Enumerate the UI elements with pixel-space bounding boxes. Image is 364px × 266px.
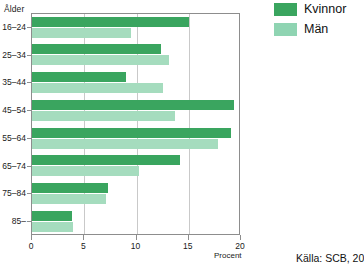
y-axis-tick-label: 25–34 bbox=[2, 50, 26, 60]
bar-group bbox=[32, 97, 239, 125]
x-axis-tick-label: 15 bbox=[183, 241, 192, 251]
y-axis-tick bbox=[27, 138, 31, 139]
bar-man bbox=[32, 222, 73, 232]
bar-group bbox=[32, 153, 239, 181]
legend-item-kvinnor: Kvinnor bbox=[274, 3, 356, 16]
plot-area bbox=[31, 13, 240, 235]
x-axis-tick bbox=[188, 235, 189, 240]
bar-kvinnor bbox=[32, 128, 231, 138]
bar-man bbox=[32, 28, 131, 38]
legend-item-man: Män bbox=[274, 23, 356, 36]
y-axis-tick-label: 75–84 bbox=[2, 188, 26, 198]
chart-legend: Kvinnor Män bbox=[274, 3, 356, 43]
bar-man bbox=[32, 111, 175, 121]
y-axis-tick-label: 45–54 bbox=[2, 105, 26, 115]
y-axis-labels: 16–2425–3435–4445–5455–6465–7475–8485– bbox=[0, 13, 29, 235]
bar-man bbox=[32, 194, 106, 204]
y-axis-tick-label: 35–44 bbox=[2, 77, 26, 87]
legend-swatch-icon-man bbox=[274, 23, 297, 36]
bar-man bbox=[32, 139, 218, 149]
y-axis-tick bbox=[27, 55, 31, 56]
bar-man bbox=[32, 83, 163, 93]
y-axis-tick-label: 16–24 bbox=[2, 22, 26, 32]
bar-kvinnor bbox=[32, 44, 161, 54]
x-axis-tick-label: 10 bbox=[131, 241, 140, 251]
bar-kvinnor bbox=[32, 72, 126, 82]
y-axis-tick bbox=[27, 221, 31, 222]
x-axis-tick bbox=[136, 235, 137, 240]
y-axis-tick-label: 65–74 bbox=[2, 161, 26, 171]
x-axis-tick-label: 20 bbox=[235, 241, 244, 251]
bar-kvinnor bbox=[32, 211, 72, 221]
y-axis-tick bbox=[27, 193, 31, 194]
x-axis-tick-label: 5 bbox=[81, 241, 86, 251]
bar-man bbox=[32, 55, 169, 65]
y-axis-tick bbox=[27, 27, 31, 28]
bar-kvinnor bbox=[32, 183, 108, 193]
x-axis-tick bbox=[31, 235, 32, 240]
y-axis-tick-label: 55–64 bbox=[2, 133, 26, 143]
bar-group bbox=[32, 208, 239, 236]
y-axis-tick bbox=[27, 166, 31, 167]
bar-group bbox=[32, 42, 239, 70]
legend-swatch-icon-kvinnor bbox=[274, 3, 297, 16]
x-axis-title: Procent bbox=[214, 251, 242, 260]
source-note: Källa: SCB, 20 bbox=[296, 252, 364, 264]
bar-kvinnor bbox=[32, 155, 180, 165]
y-axis-tick bbox=[27, 110, 31, 111]
x-axis-tick bbox=[240, 235, 241, 240]
bar-rows bbox=[32, 14, 239, 234]
x-axis-tick-label: 0 bbox=[29, 241, 34, 251]
bar-kvinnor bbox=[32, 100, 234, 110]
bar-group bbox=[32, 14, 239, 42]
bar-group bbox=[32, 181, 239, 209]
legend-label-kvinnor: Kvinnor bbox=[304, 3, 346, 16]
bar-man bbox=[32, 166, 139, 176]
bar-group bbox=[32, 125, 239, 153]
x-axis-tick bbox=[83, 235, 84, 240]
bar-kvinnor bbox=[32, 17, 189, 27]
bar-group bbox=[32, 70, 239, 98]
y-axis-tick bbox=[27, 82, 31, 83]
y-axis-tick-label: 85– bbox=[12, 216, 26, 226]
legend-label-man: Män bbox=[304, 23, 328, 36]
